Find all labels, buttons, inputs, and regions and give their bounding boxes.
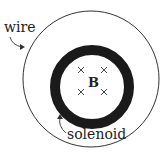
field-into-page-icon [101, 89, 107, 95]
wire-label: wire [4, 19, 35, 35]
field-into-page-icon [78, 67, 84, 73]
field-into-page-icon [101, 67, 107, 73]
solenoid-label: solenoid [67, 126, 126, 142]
field-into-page-icon [78, 89, 84, 95]
field-label: B [88, 75, 99, 90]
solenoid-wire-diagram: B wire solenoid [0, 0, 166, 159]
solenoid-pointer-arrow [60, 118, 66, 133]
arrowhead-icon [20, 44, 25, 50]
